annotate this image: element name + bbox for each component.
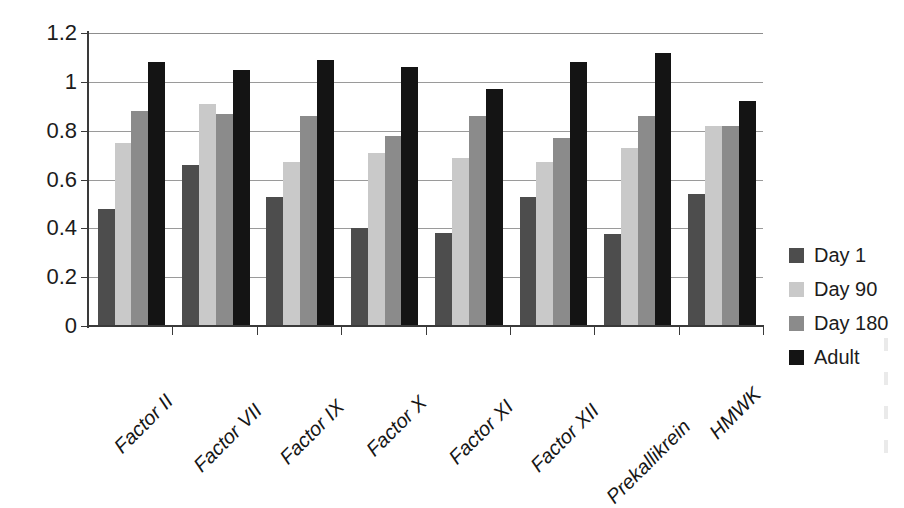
bar-group-bars — [604, 33, 672, 326]
bar-fill — [655, 53, 672, 326]
bar-fill — [148, 62, 165, 326]
bar-fill — [486, 89, 503, 326]
bar-group — [604, 33, 672, 326]
legend-label: Day 90 — [814, 279, 877, 299]
bar-fill — [98, 209, 115, 326]
legend-swatch-day-90 — [789, 282, 804, 297]
legend-swatch-adult — [789, 350, 804, 365]
bar-fill — [739, 101, 756, 326]
x-axis-category-text: Factor IX — [275, 395, 349, 469]
bar-group-bars — [520, 33, 588, 326]
bar-group-bars — [98, 33, 166, 326]
bar-group-bars — [266, 33, 334, 326]
bar-fill — [520, 197, 537, 326]
bar-fill — [621, 148, 638, 326]
legend-label: Day 180 — [814, 313, 889, 333]
scan-artifact — [884, 338, 888, 351]
x-axis-tick — [257, 326, 258, 335]
bar-fill — [216, 114, 233, 326]
x-axis-tick — [510, 326, 511, 335]
bar-group-bars — [351, 33, 419, 326]
legend-item: Day 1 — [789, 238, 901, 272]
bar-group — [520, 33, 588, 326]
legend-swatch-day-180 — [789, 316, 804, 331]
x-axis-category-text: Prekallikrein — [601, 415, 694, 508]
y-axis-label: 1 — [65, 71, 77, 93]
bar-fill — [233, 70, 250, 326]
bar-group — [182, 33, 250, 326]
bar-fill — [385, 136, 402, 326]
y-axis-label: 0.8 — [46, 120, 77, 142]
bar-fill — [469, 116, 486, 326]
bar-fill — [435, 233, 452, 326]
bar-fill — [604, 234, 621, 326]
x-axis-tick — [679, 326, 680, 335]
y-axis-label: 0 — [65, 315, 77, 337]
bar-group — [435, 33, 503, 326]
bar-fill — [266, 197, 283, 326]
bar-group — [266, 33, 334, 326]
x-axis-line — [87, 325, 764, 327]
x-axis-tick — [763, 326, 764, 335]
bar-fill — [570, 62, 587, 326]
bar-fill — [115, 143, 132, 326]
bar-fill — [368, 153, 385, 326]
bar-fill — [131, 111, 148, 326]
scan-artifact — [884, 372, 888, 385]
y-axis-line — [87, 31, 89, 328]
legend-label: Adult — [814, 347, 860, 367]
legend-label: Day 1 — [814, 245, 866, 265]
bar-fill — [283, 162, 300, 326]
x-axis-tick — [341, 326, 342, 335]
scan-artifact — [884, 406, 888, 419]
plot-area: 00.20.40.60.811.2 — [88, 33, 763, 326]
bar-fill — [638, 116, 655, 326]
bar-group — [351, 33, 419, 326]
x-axis-category-text: Factor XII — [526, 399, 604, 477]
x-axis-category-text: Factor VII — [189, 399, 267, 477]
y-axis-label: 0.6 — [46, 169, 77, 191]
bar-fill — [452, 158, 469, 326]
bar-group-bars — [182, 33, 250, 326]
y-axis-label: 1.2 — [46, 22, 77, 44]
bar-fill — [199, 104, 216, 326]
x-axis-tick — [172, 326, 173, 335]
y-axis-label: 0.4 — [46, 217, 77, 239]
x-axis-category-text: Factor X — [362, 391, 432, 461]
bar-fill — [553, 138, 570, 326]
bar-fill — [351, 228, 368, 326]
legend-item: Day 90 — [789, 272, 901, 306]
bar-fill — [722, 126, 739, 326]
legend-swatch-day-1 — [789, 248, 804, 263]
x-axis-category-text: Factor II — [110, 390, 178, 458]
x-axis-category-text: Factor XI — [444, 395, 518, 469]
scan-artifact — [884, 440, 888, 453]
x-axis-category-text: HMWK — [705, 383, 766, 444]
legend-item: Day 180 — [789, 306, 901, 340]
bar-fill — [688, 194, 705, 326]
bar-fill — [317, 60, 334, 326]
bar-fill — [401, 67, 418, 326]
bar-fill — [536, 162, 553, 326]
bar-fill — [705, 126, 722, 326]
bar-group-bars — [435, 33, 503, 326]
bar-group-bars — [688, 33, 756, 326]
x-axis-tick — [594, 326, 595, 335]
x-axis-tick — [426, 326, 427, 335]
chart-legend: Day 1Day 90Day 180Adult — [789, 238, 901, 374]
y-axis-label: 0.2 — [46, 266, 77, 288]
bar-fill — [182, 165, 199, 326]
bar-fill — [300, 116, 317, 326]
bar-group — [98, 33, 166, 326]
bar-group — [688, 33, 756, 326]
